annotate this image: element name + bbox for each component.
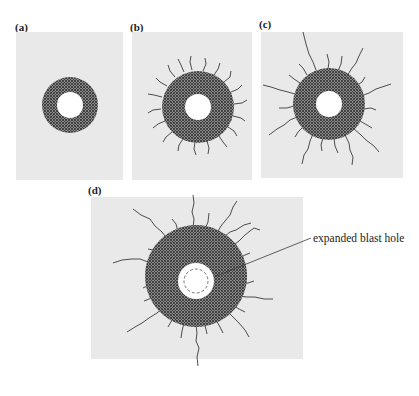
blast-hole-b [185, 94, 211, 120]
panel-c-crushed-zone [293, 68, 365, 140]
blast-hole-a [57, 92, 83, 118]
panel-d-crushed-zone [145, 225, 247, 327]
panel-a-crushed-zone [42, 77, 98, 133]
expanded-blast-hole [178, 263, 214, 299]
blast-diagram [0, 0, 419, 396]
blast-hole-c [316, 91, 342, 117]
panel-b-crushed-zone [162, 71, 234, 143]
